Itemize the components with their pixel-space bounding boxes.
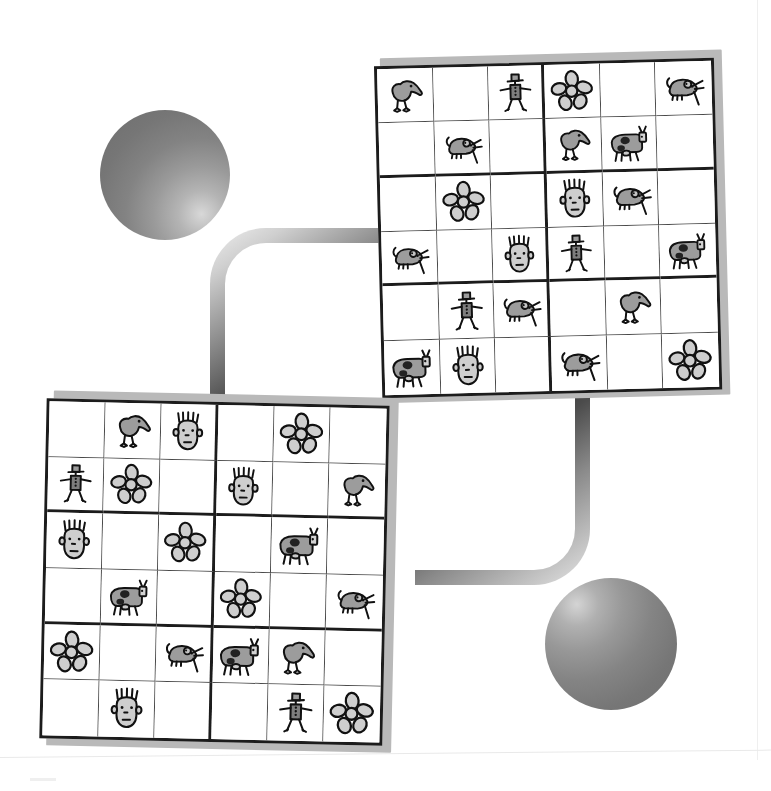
face-icon <box>104 686 150 733</box>
bottom-grid-cell-r6c4[interactable] <box>211 683 268 740</box>
bottom-grid-cell-r1c6[interactable] <box>329 407 386 464</box>
cow-icon <box>106 574 152 618</box>
top-grid-cell-r1c3[interactable] <box>488 65 545 121</box>
bottom-grid-cell-r3c6[interactable] <box>327 519 384 576</box>
bottom-grid-cell-r3c2[interactable] <box>102 514 159 571</box>
top-grid-cell-r2c5[interactable] <box>601 117 658 173</box>
bottom-grid-cell-r5c1[interactable] <box>44 624 101 681</box>
top-grid-cell-r3c6[interactable] <box>658 169 715 225</box>
top-grid-cell-r4c4[interactable] <box>548 227 605 283</box>
bottom-grid-cell-r1c1[interactable] <box>48 401 105 458</box>
top-grid-cell-r4c6[interactable] <box>659 224 716 280</box>
bottom-grid-cell-r5c6[interactable] <box>324 630 381 687</box>
top-grid-cell-r3c4[interactable] <box>547 172 604 228</box>
scan-corner-mark <box>30 778 56 781</box>
top-grid-cell-r2c1[interactable] <box>378 122 435 178</box>
bottom-grid-cell-r5c3[interactable] <box>156 626 213 683</box>
face-icon <box>166 409 211 455</box>
bottom-grid-cell-r5c4[interactable] <box>212 628 269 685</box>
bottom-grid-cell-r4c5[interactable] <box>269 573 326 630</box>
bottom-grid-cell-r4c4[interactable] <box>213 572 270 629</box>
bottom-grid-cell-r5c5[interactable] <box>268 629 325 686</box>
man-with-hat-icon <box>52 462 98 506</box>
top-grid-cell-r5c2[interactable] <box>438 284 495 340</box>
top-grid-cell-r5c4[interactable] <box>550 281 607 337</box>
bottom-grid-cell-r4c1[interactable] <box>45 568 102 625</box>
top-grid-cell-r2c4[interactable] <box>545 118 602 174</box>
top-grid-cell-r1c2[interactable] <box>433 66 490 122</box>
bottom-grid-cell-r1c5[interactable] <box>273 406 330 463</box>
top-grid-cell-r3c1[interactable] <box>380 176 437 232</box>
top-grid-cell-r3c2[interactable] <box>435 175 492 231</box>
bottom-grid-cell-r6c3[interactable] <box>155 682 212 739</box>
bottom-grid-cell-r4c3[interactable] <box>157 571 214 628</box>
bottom-grid-container <box>34 384 397 757</box>
top-grid-cell-r2c3[interactable] <box>490 119 547 175</box>
top-grid-cell-r2c6[interactable] <box>657 115 714 171</box>
man-with-hat-icon <box>553 231 599 274</box>
scan-edge-right <box>757 0 758 760</box>
bottom-grid-cell-r4c2[interactable] <box>101 570 158 627</box>
flower-icon <box>440 180 486 225</box>
top-grid-cell-r3c3[interactable] <box>491 174 548 230</box>
bottom-grid-cell-r6c5[interactable] <box>267 685 324 742</box>
top-grid-cell-r5c1[interactable] <box>383 285 440 341</box>
top-grid-cell-r1c1[interactable] <box>377 68 434 124</box>
bottom-grid-cell-r2c1[interactable] <box>47 457 104 514</box>
top-grid-cell-r4c3[interactable] <box>492 228 549 284</box>
bird-icon <box>610 284 656 329</box>
bottom-grid-cell-r2c2[interactable] <box>103 458 160 515</box>
bottom-grid-cell-r2c6[interactable] <box>328 463 385 520</box>
top-grid-cell-r6c2[interactable] <box>440 338 497 394</box>
face-icon <box>497 233 541 276</box>
sphere-lower-right <box>545 578 677 710</box>
bottom-grid-cell-r4c6[interactable] <box>326 574 383 631</box>
top-grid-cell-r5c6[interactable] <box>661 278 718 334</box>
mouse-icon <box>660 66 707 111</box>
man-with-hat-icon <box>443 289 489 334</box>
top-grid-cell-r6c5[interactable] <box>607 334 664 390</box>
bottom-grid-cell-r6c6[interactable] <box>323 686 380 743</box>
top-grid-cell-r1c6[interactable] <box>655 61 712 117</box>
top-grid-cell-r1c4[interactable] <box>544 64 601 120</box>
bottom-grid-cell-r3c3[interactable] <box>158 515 215 572</box>
mouse-icon <box>556 340 602 386</box>
bottom-grid-cell-r5c2[interactable] <box>100 625 157 682</box>
top-grid-cell-r5c5[interactable] <box>605 279 662 335</box>
top-grid-cell-r4c1[interactable] <box>381 231 438 287</box>
cow-icon <box>606 121 652 164</box>
bottom-grid-cell-r3c1[interactable] <box>46 513 103 570</box>
bottom-grid-cell-r3c4[interactable] <box>214 516 271 573</box>
bottom-grid-cell-r1c3[interactable] <box>161 404 218 461</box>
top-grid-cell-r4c5[interactable] <box>604 225 661 281</box>
top-grid-cell-r3c5[interactable] <box>602 171 659 227</box>
top-grid-cell-r6c4[interactable] <box>551 335 608 391</box>
top-grid-cell-r1c5[interactable] <box>600 62 657 118</box>
bottom-grid-cell-r1c2[interactable] <box>105 403 162 460</box>
top-grid-cell-r2c2[interactable] <box>434 121 491 177</box>
flower-icon <box>163 520 208 566</box>
top-grid-cell-r5c3[interactable] <box>494 282 551 338</box>
top-grid-cell-r6c6[interactable] <box>662 332 719 388</box>
bottom-grid-cell-r2c3[interactable] <box>160 459 217 516</box>
top-grid-cell-r6c3[interactable] <box>495 337 552 393</box>
top-grid-cell-r6c1[interactable] <box>384 339 441 395</box>
pipe-lower-right <box>415 395 590 585</box>
mouse-icon <box>607 176 653 221</box>
cow-icon <box>276 523 322 569</box>
bottom-grid-cell-r2c4[interactable] <box>216 461 273 518</box>
flower-icon <box>667 337 714 383</box>
bottom-grid[interactable] <box>39 398 389 745</box>
worksheet-page <box>0 0 771 791</box>
bottom-grid-cell-r6c1[interactable] <box>42 680 99 737</box>
bottom-grid-cell-r1c4[interactable] <box>217 405 274 462</box>
face-icon <box>552 177 598 222</box>
top-grid-cell-r4c2[interactable] <box>437 229 494 285</box>
bird-icon <box>333 468 380 512</box>
mouse-icon <box>161 631 206 677</box>
bottom-grid-cell-r6c2[interactable] <box>99 681 156 738</box>
bottom-grid-cell-r2c5[interactable] <box>272 462 329 519</box>
top-grid[interactable] <box>374 58 722 398</box>
face-icon <box>445 343 491 389</box>
bottom-grid-cell-r3c5[interactable] <box>271 518 328 575</box>
